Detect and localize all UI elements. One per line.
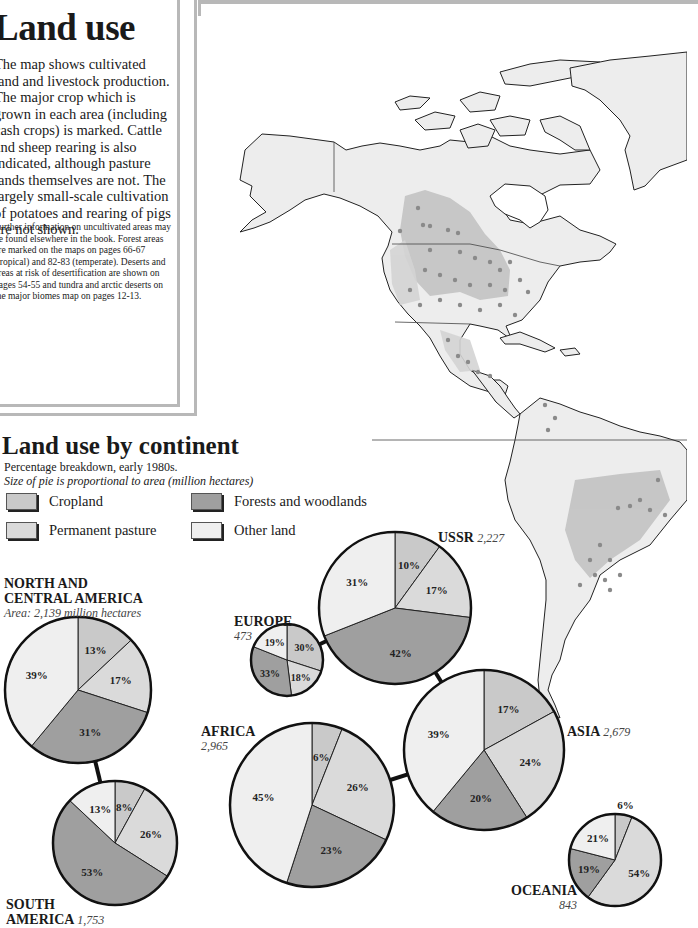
pie-value-label: 39% [26,669,48,681]
pie-label-asia: ASIA 2,679 [567,724,630,740]
legend-item-cropland: Cropland [6,493,103,510]
pie-slice-permanent-pasture [115,789,177,877]
pasture-swatch-icon [6,522,37,539]
pie-value-label: 53% [81,866,103,878]
pie-slice-forests-and-woodlands [53,801,167,905]
pie-connector [312,750,484,805]
pie-label-europe: EUROPE 473 [234,614,292,644]
other-land-swatch-icon [191,522,222,539]
pie-value-label: 6% [313,751,330,763]
pie-value-label: 13% [84,644,106,656]
pie-slice-forests-and-woodlands [433,750,527,830]
pie-slice-permanent-pasture [78,640,151,713]
pie-slice-other-land [70,781,115,843]
pie-label-africa: AFRICA 2,965 [201,724,255,754]
cropland-swatch-icon [6,493,37,510]
pie-value-label: 13% [89,803,111,815]
pie-value-label: 21% [587,832,609,844]
pie-slice-other-land [570,814,615,860]
pie-value-label: 20% [470,792,492,804]
pie-value-label: 26% [140,828,162,840]
pie-slice-forests-and-woodlands [287,805,387,887]
pie-label-south-america: SOUTH AMERICA 1,753 [6,897,104,928]
pie-slice-permanent-pasture [312,729,394,840]
legend-item-forests: Forests and woodlands [191,493,367,510]
chart-subtitle-italic: Size of pie is proportional to area (mil… [4,474,253,489]
legend-label: Other land [234,522,296,539]
pie-label-north-central-america: NORTH AND CENTRAL AMERICA Area: 2,139 mi… [4,576,143,621]
pie-value-label: 23% [321,844,343,856]
pie-slice-forests-and-woodlands [31,690,147,763]
page-title: Land use [0,6,135,49]
pie-value-label: 45% [252,791,274,803]
pie-value-label: 39% [428,728,450,740]
pie-oceania: 6%54%19%21% [569,799,661,906]
pie-slice-other-land [5,617,78,746]
pie-value-label: 26% [347,781,369,793]
pie-value-label: 31% [79,726,101,738]
pie-value-label: 17% [110,674,132,686]
legend-item-other-land: Other land [191,522,296,539]
pie-value-label: 19% [578,863,600,875]
legend-label: Forests and woodlands [234,493,367,510]
intro-note: Further information on uncultivated area… [0,222,172,303]
pie-slice-cropland [312,723,342,805]
chart-title: Land use by continent [2,432,239,460]
intro-text: The map shows cultivated land and livest… [0,56,172,238]
pie-value-label: 6% [617,799,634,811]
pie-south-america: 8%26%53%13% [53,781,177,905]
chart-subtitle: Percentage breakdown, early 1980s. [4,460,178,475]
pie-slice-permanent-pasture [588,817,661,906]
pie-north-and-central-america: 13%17%31%39% [5,617,151,763]
legend-label: Permanent pasture [49,522,157,539]
pie-value-label: 54% [628,867,650,879]
legend-item-pasture: Permanent pasture [6,522,157,539]
pie-label-ussr: USSR 2,227 [438,530,504,546]
pie-slice-cropland [115,781,145,843]
pie-connector [78,690,115,843]
pie-value-label: 24% [519,756,541,768]
legend-label: Cropland [49,493,103,510]
pie-label-oceania: OCEANIA 843 [511,883,577,913]
pie-slice-permanent-pasture [484,711,564,817]
pie-value-label: 8% [116,801,133,813]
pie-slice-cropland [78,617,131,690]
pie-slice-cropland [615,814,632,860]
forests-swatch-icon [191,493,222,510]
